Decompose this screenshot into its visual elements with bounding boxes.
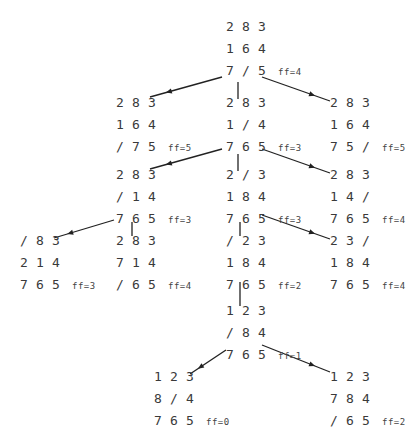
puzzle-tile: 4 [258,252,274,274]
puzzle-tile: 8 [346,164,362,186]
puzzle-tile: 5 [148,136,164,158]
puzzle-tile: 8 [132,164,148,186]
heuristic-label: ff=1 [278,351,302,361]
blank-tile: / [242,114,258,136]
puzzle-tile: 8 [132,92,148,114]
puzzle-tile: 1 [226,252,242,274]
puzzle-tile: 1 [226,186,242,208]
puzzle-tile: 1 [36,252,52,274]
puzzle-tile: 4 [362,114,378,136]
puzzle-tile: 6 [346,274,362,296]
puzzle-tile: 5 [258,344,274,366]
puzzle-row: 283 [116,164,192,186]
puzzle-tile: 2 [242,230,258,252]
puzzle-tile: 1 [330,366,346,388]
puzzle-tile: 3 [362,366,378,388]
puzzle-tile: 8 [36,230,52,252]
puzzle-tile: 6 [242,38,258,60]
puzzle-tile: 4 [258,322,274,344]
puzzle-tile: 6 [242,136,258,158]
puzzle-row: 765ff=4 [330,274,406,296]
puzzle-row: 714 [116,252,192,274]
puzzle-tile: 5 [346,136,362,158]
puzzle-tile: 3 [148,230,164,252]
puzzle-row: 123 [226,300,302,322]
puzzle-tile: 7 [226,208,242,230]
puzzle-tile: 4 [186,388,202,410]
puzzle-tile: 6 [132,208,148,230]
puzzle-tile: 3 [258,300,274,322]
blank-tile: / [242,60,258,82]
puzzle-tile: 6 [346,208,362,230]
puzzle-state-node: /23184765ff=2 [226,230,302,296]
puzzle-tile: 8 [242,186,258,208]
blank-tile: / [116,186,132,208]
puzzle-tile: 2 [170,366,186,388]
blank-tile: / [330,410,346,430]
puzzle-state-node: 28314/765ff=4 [330,164,406,230]
puzzle-tile: 7 [226,136,242,158]
puzzle-tile: 5 [52,274,68,296]
puzzle-tile: 1 [330,114,346,136]
blank-tile: / [226,322,242,344]
puzzle-row: 123 [154,366,230,388]
puzzle-tile: 4 [346,186,362,208]
puzzle-row: /65ff=2 [330,410,406,430]
puzzle-row: 75/ff=5 [330,136,406,158]
puzzle-tile: 4 [148,252,164,274]
puzzle-row: 8/4 [154,388,230,410]
puzzle-row: 14/ [330,186,406,208]
puzzle-tile: 8 [346,92,362,114]
puzzle-row: 2/3 [226,164,302,186]
puzzle-state-node: 2831/4765ff=3 [226,92,302,158]
puzzle-row: 184 [226,186,302,208]
puzzle-row: /75ff=5 [116,136,192,158]
puzzle-tile: 6 [346,410,362,430]
puzzle-tile: 4 [258,114,274,136]
heuristic-label: ff=3 [72,281,96,291]
heuristic-label: ff=5 [382,143,406,153]
puzzle-row: 164 [330,114,406,136]
heuristic-label: ff=4 [168,281,192,291]
puzzle-tile: 7 [330,274,346,296]
puzzle-tile: 1 [226,300,242,322]
puzzle-tile: 4 [148,186,164,208]
puzzle-tile: 7 [226,344,242,366]
puzzle-tile: 5 [362,274,378,296]
heuristic-label: ff=3 [168,215,192,225]
puzzle-tile: 7 [330,388,346,410]
puzzle-tile: 2 [226,92,242,114]
puzzle-tile: 6 [242,208,258,230]
puzzle-row: 765ff=3 [226,208,302,230]
puzzle-row: 7/5ff=4 [226,60,302,82]
puzzle-tile: 8 [242,252,258,274]
puzzle-tile: 8 [242,322,258,344]
puzzle-row: 164 [116,114,192,136]
puzzle-tile: 7 [154,410,170,430]
puzzle-tile: 2 [242,300,258,322]
puzzle-row: 765ff=3 [116,208,192,230]
puzzle-tile: 2 [226,16,242,38]
puzzle-row: 765ff=4 [330,208,406,230]
puzzle-tile: 2 [226,164,242,186]
puzzle-tile: 5 [258,136,274,158]
heuristic-label: ff=4 [382,281,406,291]
puzzle-tile: 8 [132,230,148,252]
puzzle-tile: 7 [330,136,346,158]
blank-tile: / [20,230,36,252]
blank-tile: / [362,186,378,208]
puzzle-tile: 8 [154,388,170,410]
puzzle-tile: 8 [242,16,258,38]
puzzle-row: 765ff=3 [20,274,96,296]
puzzle-tile: 8 [346,252,362,274]
heuristic-label: ff=3 [278,143,302,153]
puzzle-tile: 3 [258,92,274,114]
search-tree-diagram: 2831647/5ff=4283164/75ff=52831/4765ff=32… [0,0,420,430]
blank-tile: / [226,230,242,252]
puzzle-row: /84 [226,322,302,344]
puzzle-tile: 1 [132,252,148,274]
puzzle-state-node: /83214765ff=3 [20,230,96,296]
puzzle-tile: 3 [148,92,164,114]
puzzle-tile: 1 [132,186,148,208]
puzzle-tile: 7 [226,274,242,296]
